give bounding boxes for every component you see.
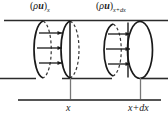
flux-label-right: (ρu)x+dx (96, 1, 126, 13)
flux-label-left: (ρu)x (30, 1, 50, 13)
left-face-front-arc (34, 21, 43, 78)
velocity-arrow-right-1 (108, 32, 130, 36)
velocity-arrow-left-1 (39, 31, 62, 35)
velocity-arrows-left-group (37, 31, 62, 65)
right-element-front-arc (104, 24, 113, 76)
x-plane-back-arc-dashed (70, 21, 79, 78)
flux-label-left-subscript: x (47, 6, 50, 13)
velocity-arrow-right-2 (106, 47, 130, 51)
flow-control-volume-figure: (ρu)x (ρu)x+dx x x+dx (0, 0, 168, 121)
xdx-plane-ellipse (128, 22, 153, 79)
tick-label-x: x (66, 103, 70, 113)
tick-label-xdx: x+dx (128, 103, 149, 113)
x-plane-front-arc (61, 21, 70, 78)
velocity-arrows-right-group (106, 32, 130, 66)
left-face-back-arc-dashed (43, 21, 51, 78)
velocity-arrow-left-2 (37, 46, 62, 50)
right-element-back-arc-dashed (113, 24, 121, 76)
flux-label-right-subscript: x+dx (113, 6, 126, 13)
